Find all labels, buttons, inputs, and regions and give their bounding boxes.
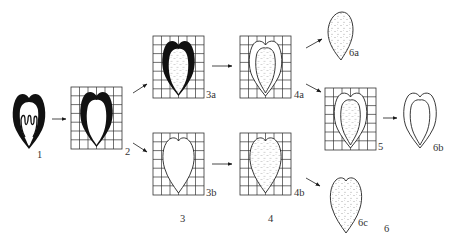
label-5: 5 [378, 142, 383, 153]
arrow-4a-to-6a [306, 39, 322, 48]
label-1: 1 [37, 150, 42, 161]
label-6c: 6c [358, 218, 368, 229]
label-4: 4 [268, 214, 273, 225]
arrow-2-to-3b [133, 143, 147, 152]
label-6a: 6a [349, 48, 359, 59]
arrow-2-to-3a [133, 84, 147, 93]
seed-stage-1 [13, 94, 46, 149]
grid-stage-4b [240, 133, 291, 195]
grid-stage-3a [153, 36, 204, 98]
label-4a: 4a [294, 90, 304, 101]
grid-stage-5 [325, 88, 376, 150]
label-3b: 3b [206, 188, 217, 199]
label-4b: 4b [294, 188, 305, 199]
label-6b: 6b [433, 143, 444, 154]
label-2: 2 [125, 147, 130, 158]
grid-stage-3b [153, 133, 204, 195]
seed-process-diagram: 1 2 3a 3b 3 4a 4b 4 5 6a 6b 6c 6 [0, 0, 452, 243]
label-3: 3 [180, 214, 185, 225]
grid-stage-4a [240, 36, 291, 98]
seed-stage-6b [404, 93, 437, 148]
diagram-canvas [0, 0, 452, 243]
seed-stage-6c [330, 178, 361, 233]
grid-stage-2 [71, 87, 122, 149]
arrow-4b-to-6c [306, 178, 320, 186]
arrow-4a-to-5 [306, 84, 321, 92]
label-6: 6 [384, 224, 389, 235]
label-3a: 3a [206, 90, 216, 101]
